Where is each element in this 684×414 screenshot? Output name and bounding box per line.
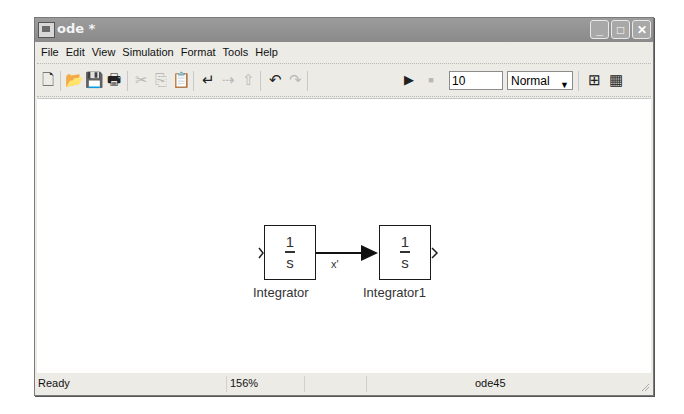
minimize-button[interactable]: _: [590, 20, 609, 39]
menu-edit[interactable]: Edit: [64, 44, 90, 62]
toolbar-separator: [60, 71, 61, 91]
integrator-label[interactable]: Integrator: [253, 285, 309, 300]
cut-icon[interactable]: ✂: [132, 71, 150, 89]
start-simulation-icon[interactable]: ▶: [400, 71, 418, 89]
integrator-block[interactable]: 1 s: [264, 225, 316, 280]
toolbar-separator: [260, 71, 261, 91]
save-icon[interactable]: 💾: [85, 71, 103, 89]
toolbar-separator: [127, 71, 128, 91]
zoom-level: 156%: [230, 377, 258, 389]
toolbar-separator: [193, 71, 194, 91]
forward-icon[interactable]: ⇢: [219, 71, 237, 89]
numerator: 1: [401, 233, 409, 250]
redo-icon[interactable]: ↷: [286, 71, 304, 89]
integrator1-label[interactable]: Integrator1: [363, 285, 426, 300]
menu-file[interactable]: File: [39, 44, 64, 62]
chevron-down-icon[interactable]: ▼: [560, 76, 569, 94]
library-browser-icon[interactable]: ▦: [607, 71, 625, 89]
menu-help[interactable]: Help: [253, 44, 283, 62]
transfer-function: 1 s: [265, 234, 315, 270]
paste-icon[interactable]: 📋: [172, 71, 190, 89]
menu-view[interactable]: View: [90, 44, 121, 62]
undo-icon[interactable]: ↶: [266, 71, 284, 89]
up-to-parent-icon[interactable]: ⇧: [239, 71, 257, 89]
solver-name: ode45: [475, 377, 506, 389]
toolbar-separator: [578, 71, 579, 91]
status-text: Ready: [38, 377, 70, 389]
model-canvas[interactable]: 1 s Integrator x' 1 s Integrator1: [37, 98, 651, 373]
status-bar: Ready 156% ode45: [37, 374, 651, 393]
title-bar[interactable]: ode * _ □ ✕: [35, 18, 653, 42]
fraction-bar: [285, 251, 295, 253]
window-title: ode *: [57, 21, 95, 36]
new-model-icon[interactable]: 🗋: [39, 71, 57, 89]
signal-label[interactable]: x': [331, 258, 339, 270]
signal-lines: [37, 99, 651, 373]
simulation-mode-select[interactable]: Normal ▼: [507, 71, 573, 90]
status-divider: [366, 376, 367, 392]
toolbar-separator: [307, 71, 308, 91]
open-icon[interactable]: 📂: [65, 71, 83, 89]
model-browser-icon[interactable]: ⊞: [585, 71, 603, 89]
menu-simulation[interactable]: Simulation: [120, 44, 178, 62]
simulink-model-icon: [38, 22, 55, 38]
copy-icon[interactable]: ⎘: [152, 71, 170, 89]
stop-simulation-icon[interactable]: ■: [422, 71, 440, 89]
fraction-bar: [400, 251, 410, 253]
menu-bar: File Edit View Simulation Format Tools H…: [35, 44, 653, 62]
simulation-mode-value: Normal: [511, 74, 550, 88]
maximize-button[interactable]: □: [611, 20, 630, 39]
close-button[interactable]: ✕: [632, 20, 651, 39]
denominator: s: [286, 254, 294, 271]
menu-divider: [37, 63, 651, 64]
toolbar-divider: [37, 96, 651, 97]
status-divider: [226, 376, 227, 392]
toolbar: 🗋 📂 💾 🖶 ✂ ⎘ 📋 ↵ ⇢ ⇧ ↶ ↷ ▶ ■ 10 Normal ▼ …: [35, 66, 653, 96]
menu-tools[interactable]: Tools: [221, 44, 254, 62]
go-to-parent-undo-icon[interactable]: ↵: [199, 71, 217, 89]
resize-grip-icon[interactable]: [640, 382, 650, 392]
numerator: 1: [286, 233, 294, 250]
simulink-window: ode * _ □ ✕ File Edit View Simulation Fo…: [34, 17, 654, 396]
denominator: s: [401, 254, 409, 271]
stop-time-input[interactable]: 10: [449, 71, 503, 90]
transfer-function: 1 s: [380, 234, 430, 270]
status-divider: [304, 376, 305, 392]
menu-format[interactable]: Format: [179, 44, 221, 62]
print-icon[interactable]: 🖶: [105, 71, 123, 89]
integrator1-block[interactable]: 1 s: [379, 225, 431, 280]
